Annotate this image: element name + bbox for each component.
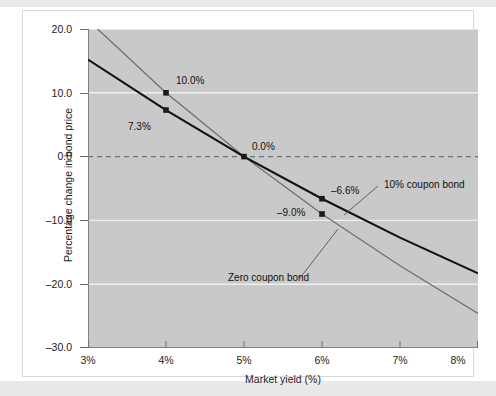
point-label-neg-9-0: –9.0% [277, 207, 305, 218]
point-label-10-0: 10.0% [176, 75, 204, 86]
y-tick-mark-neg20 [80, 284, 88, 285]
y-tick-mark-20 [80, 29, 88, 30]
annotation-ten-percent-coupon-bond: 10% coupon bond [384, 179, 465, 190]
marker-zero-6pct [319, 211, 325, 217]
point-label-7-3: 7.3% [128, 121, 151, 132]
top-band [0, 0, 496, 7]
leader-line-zero-coupon-bond [300, 229, 338, 278]
x-tick-label-4: 4% [146, 354, 186, 366]
marker-coupon-6pct [319, 196, 325, 202]
x-tick-label-3: 3% [68, 354, 108, 366]
series-line-ten-percent-coupon-bond [88, 60, 478, 274]
y-axis-title: Percentage change in bond price [62, 60, 74, 310]
y-tick-mark-neg30 [80, 347, 88, 348]
x-tick-marks [89, 341, 478, 348]
y-tick-mark-10 [80, 93, 88, 94]
y-tick-mark-neg10 [80, 220, 88, 221]
marker-coupon-4pct [163, 107, 169, 113]
x-tick-label-6: 6% [302, 354, 342, 366]
y-tick-label-20: 20.0 [26, 24, 72, 34]
figure-root: 20.0 10.0 0.0 –10.0 –20.0 –30.0 3% 4% 5%… [0, 0, 496, 396]
marker-crossing-5pct [241, 154, 247, 160]
x-tick-label-8: 8% [438, 354, 478, 366]
marker-zero-4pct [163, 90, 169, 96]
y-tick-mark-0 [80, 156, 88, 157]
annotation-zero-coupon-bond: Zero coupon bond [228, 272, 309, 283]
series-line-zero-coupon-bond [88, 29, 478, 314]
x-tick-label-5: 5% [224, 354, 264, 366]
x-axis-title: Market yield (%) [88, 373, 478, 385]
point-label-0-0: 0.0% [252, 141, 275, 152]
point-label-neg-6-6: –6.6% [331, 185, 359, 196]
plot-area: 10.0% 7.3% 0.0% –6.6% –9.0% 10% coupon b… [88, 29, 478, 348]
x-tick-label-7: 7% [380, 354, 420, 366]
y-tick-label-neg30: –30.0 [26, 342, 72, 352]
figure-card: 20.0 10.0 0.0 –10.0 –20.0 –30.0 3% 4% 5%… [22, 10, 474, 377]
